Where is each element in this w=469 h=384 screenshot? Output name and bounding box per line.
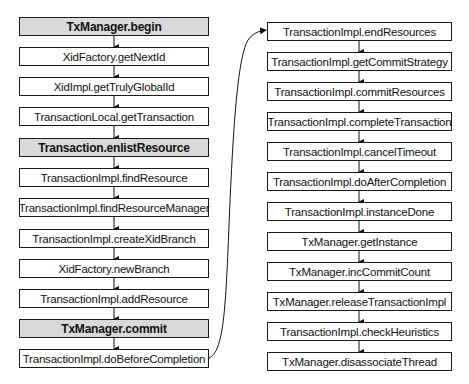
step-instancedone: TransactionImpl.instanceDone bbox=[267, 202, 452, 221]
step-transactionlocal-gettransaction: TransactionLocal.getTransaction bbox=[19, 107, 209, 126]
step-findresourcemanager: TransactionImpl.findResourceManager bbox=[19, 198, 209, 217]
step-txmanager-commit: TxManager.commit bbox=[19, 319, 209, 338]
step-getinstance: TxManager.getInstance bbox=[267, 232, 452, 251]
step-dobeforecompletion: TransactionImpl.doBeforeCompletion bbox=[19, 349, 209, 368]
step-xidfactory-getnextid: XidFactory.getNextId bbox=[19, 47, 209, 66]
step-xidimpl-gettrulyglobalid: XidImpl.getTrulyGlobalId bbox=[19, 77, 209, 96]
step-transaction-enlistresource: Transaction.enlistResource bbox=[19, 138, 209, 157]
step-canceltimeout: TransactionImpl.cancelTimeout bbox=[267, 142, 452, 161]
step-checkheuristics: TransactionImpl.checkHeuristics bbox=[267, 322, 452, 341]
step-addresource: TransactionImpl.addResource bbox=[19, 289, 209, 308]
step-findresource: TransactionImpl.findResource bbox=[19, 168, 209, 187]
step-createxidbranch: TransactionImpl.createXidBranch bbox=[19, 229, 209, 248]
step-releasetransactionimpl: TxManager.releaseTransactionImpl bbox=[267, 292, 452, 311]
step-inccommitcount: TxManager.incCommitCount bbox=[267, 262, 452, 281]
step-completetransaction: TransactionImpl.completeTransaction bbox=[267, 112, 452, 131]
step-xidfactory-newbranch: XidFactory.newBranch bbox=[19, 259, 209, 278]
step-commitresources: TransactionImpl.commitResources bbox=[267, 82, 452, 101]
step-doaftercompletion: TransactionImpl.doAfterCompletion bbox=[267, 172, 452, 191]
step-endresources: TransactionImpl.endResources bbox=[267, 22, 452, 41]
step-txmanager-begin: TxManager.begin bbox=[19, 17, 209, 36]
step-getcommitstrategy: TransactionImpl.getCommitStrategy bbox=[267, 52, 452, 71]
step-disassociatethread: TxManager.disassociateThread bbox=[267, 352, 452, 371]
